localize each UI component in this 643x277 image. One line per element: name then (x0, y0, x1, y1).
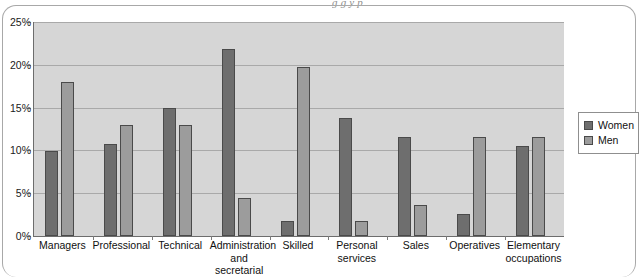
bar-men[interactable] (61, 82, 74, 236)
legend-swatch-women-icon (584, 121, 593, 130)
x-axis-label-line2: occupations (504, 252, 563, 265)
bar-group (328, 22, 387, 236)
bar-men[interactable] (414, 205, 427, 236)
bar-group (34, 22, 93, 236)
x-axis-label-line1: Elementary (507, 239, 560, 251)
bar-men[interactable] (120, 125, 133, 236)
bar-group (270, 22, 329, 236)
y-tick-mark (27, 108, 31, 109)
bar-women[interactable] (339, 118, 352, 236)
bar-women[interactable] (163, 108, 176, 236)
legend-label-women: Women (598, 120, 634, 131)
x-axis-labels: ManagersProfessionalTechnicalAdministrat… (33, 239, 563, 273)
bar-women[interactable] (222, 49, 235, 236)
bar-women[interactable] (104, 144, 117, 236)
y-tick-mark (27, 65, 31, 66)
bar-men[interactable] (473, 137, 486, 236)
bar-men[interactable] (179, 125, 192, 236)
x-axis-label: Personalservices (327, 239, 386, 264)
bar-women[interactable] (457, 214, 470, 236)
bar-women[interactable] (398, 137, 411, 236)
legend-item-women[interactable]: Women (584, 118, 638, 133)
bar-men[interactable] (297, 67, 310, 236)
x-axis-label: Sales (386, 239, 445, 252)
x-axis-label-line1: Sales (403, 239, 429, 251)
x-axis-label: Skilled (269, 239, 328, 252)
bar-men[interactable] (238, 198, 251, 236)
bar-group (387, 22, 446, 236)
x-axis-label: Professional (92, 239, 151, 252)
x-axis-label-line2: and secretarial (210, 252, 269, 277)
bars-layer (34, 22, 564, 236)
x-axis-label-line1: Skilled (283, 239, 314, 251)
x-axis-label: Elementaryoccupations (504, 239, 563, 264)
legend-label-men: Men (598, 135, 618, 146)
legend-swatch-men-icon (584, 136, 593, 145)
bar-group (152, 22, 211, 236)
y-tick-mark (27, 22, 31, 23)
bar-women[interactable] (281, 221, 294, 236)
bar-men[interactable] (355, 221, 368, 236)
bar-group (505, 22, 564, 236)
x-axis-label: Technical (151, 239, 210, 252)
chart-legend: Women Men (578, 112, 639, 154)
x-axis-label-line2: services (327, 252, 386, 265)
y-tick-mark (27, 193, 31, 194)
y-tick-mark (27, 150, 31, 151)
x-axis-label: Administrationand secretarial (210, 239, 269, 277)
plot-area (33, 22, 564, 237)
x-axis-label-line1: Technical (158, 239, 202, 251)
x-axis-label-line1: Operatives (449, 239, 500, 251)
bar-men[interactable] (532, 137, 545, 236)
bar-group (93, 22, 152, 236)
bar-women[interactable] (516, 146, 529, 236)
x-axis-label: Operatives (445, 239, 504, 252)
bar-women[interactable] (45, 151, 58, 236)
bar-group (211, 22, 270, 236)
legend-item-men[interactable]: Men (584, 133, 638, 148)
x-axis-label-line1: Managers (39, 239, 86, 251)
y-axis: 0%5%10%15%20%25% (0, 22, 31, 236)
x-axis-label-line1: Personal (336, 239, 377, 251)
x-axis-label-line1: Professional (92, 239, 150, 251)
y-tick-mark (27, 236, 31, 237)
x-axis-label: Managers (33, 239, 92, 252)
bar-group (446, 22, 505, 236)
x-axis-label-line1: Administration (210, 239, 277, 251)
